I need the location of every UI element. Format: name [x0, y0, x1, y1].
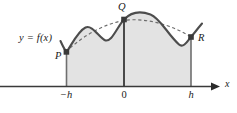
tick-label-zero: 0 — [113, 90, 135, 101]
figure-container: y = f(x) P Q R x −h 0 h — [0, 0, 237, 113]
marker-point-q — [121, 17, 127, 23]
marker-point-r — [188, 34, 194, 40]
shaded-region — [66, 13, 191, 86]
point-label-q: Q — [118, 2, 126, 13]
tick-label-negative-h: −h — [55, 90, 77, 101]
x-axis-arrowhead — [211, 83, 220, 91]
function-label: y = f(x) — [19, 33, 52, 44]
point-label-p: P — [55, 51, 61, 62]
marker-point-p — [64, 49, 70, 55]
tick-label-positive-h: h — [180, 90, 202, 101]
x-axis-label: x — [225, 79, 229, 89]
point-label-r: R — [198, 33, 204, 44]
